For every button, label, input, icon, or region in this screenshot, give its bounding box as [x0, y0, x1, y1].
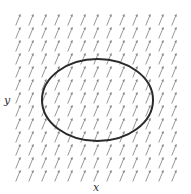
- field-arrow: [146, 171, 151, 182]
- field-arrow: [29, 132, 34, 143]
- field-arrow: [68, 67, 73, 78]
- field-arrow: [29, 119, 34, 130]
- field-arrow: [29, 93, 34, 104]
- field-arrow: [94, 80, 99, 91]
- field-arrow: [42, 54, 47, 65]
- field-arrow: [107, 67, 112, 78]
- field-arrow: [94, 145, 99, 156]
- field-arrow: [16, 28, 21, 39]
- field-arrow: [133, 54, 138, 65]
- field-arrow: [107, 41, 112, 52]
- field-arrow: [55, 132, 60, 143]
- field-arrow: [159, 132, 164, 143]
- field-arrow: [55, 145, 60, 156]
- field-arrow: [68, 119, 73, 130]
- field-arrow: [159, 106, 164, 117]
- field-arrow: [68, 158, 73, 169]
- field-arrow: [29, 54, 34, 65]
- field-arrow: [55, 93, 60, 104]
- field-arrow: [55, 171, 60, 182]
- field-arrow: [16, 41, 21, 52]
- field-arrow: [42, 41, 47, 52]
- field-arrow: [172, 145, 177, 156]
- field-arrow: [133, 145, 138, 156]
- field-arrow: [172, 106, 177, 117]
- field-arrow: [159, 41, 164, 52]
- field-arrow: [146, 145, 151, 156]
- field-arrow: [133, 119, 138, 130]
- field-arrow: [94, 15, 99, 26]
- field-arrow: [107, 28, 112, 39]
- field-arrow: [133, 80, 138, 91]
- field-arrow: [133, 93, 138, 104]
- field-arrow: [107, 93, 112, 104]
- field-arrow: [16, 93, 21, 104]
- field-arrow: [159, 80, 164, 91]
- field-arrow: [81, 158, 86, 169]
- field-arrow: [120, 41, 125, 52]
- field-arrow: [107, 119, 112, 130]
- field-arrow: [81, 15, 86, 26]
- field-arrow: [55, 158, 60, 169]
- field-arrow: [42, 132, 47, 143]
- field-arrow: [172, 41, 177, 52]
- field-arrow: [55, 80, 60, 91]
- field-arrow: [120, 15, 125, 26]
- field-arrow: [94, 93, 99, 104]
- field-arrow: [159, 145, 164, 156]
- field-arrow: [172, 67, 177, 78]
- field-arrow: [68, 145, 73, 156]
- field-arrow: [55, 106, 60, 117]
- field-arrow: [29, 67, 34, 78]
- x-axis-label: x: [93, 181, 100, 194]
- field-arrow: [146, 67, 151, 78]
- field-arrow: [81, 171, 86, 182]
- field-arrow: [133, 171, 138, 182]
- field-arrow: [16, 106, 21, 117]
- field-arrow: [120, 119, 125, 130]
- field-arrow: [68, 41, 73, 52]
- field-arrow: [42, 28, 47, 39]
- field-arrow: [172, 119, 177, 130]
- field-arrow: [81, 119, 86, 130]
- field-arrow: [55, 28, 60, 39]
- field-arrow: [133, 106, 138, 117]
- field-arrow: [81, 80, 86, 91]
- field-arrow: [94, 119, 99, 130]
- field-arrow: [94, 67, 99, 78]
- field-arrow: [29, 171, 34, 182]
- field-arrow: [172, 93, 177, 104]
- field-arrow: [146, 54, 151, 65]
- field-arrow: [29, 15, 34, 26]
- field-arrow: [42, 158, 47, 169]
- field-arrow: [159, 171, 164, 182]
- field-arrow: [172, 15, 177, 26]
- field-arrow: [107, 145, 112, 156]
- field-arrow: [16, 171, 21, 182]
- field-arrow: [146, 41, 151, 52]
- field-arrow: [120, 106, 125, 117]
- field-arrow: [120, 158, 125, 169]
- field-arrow: [159, 54, 164, 65]
- field-arrow: [55, 54, 60, 65]
- field-arrow: [81, 54, 86, 65]
- field-arrow: [107, 106, 112, 117]
- field-arrow: [42, 145, 47, 156]
- closed-curve-ellipse: [42, 59, 153, 141]
- field-arrow: [107, 171, 112, 182]
- y-axis-label: y: [3, 94, 11, 107]
- field-arrow: [172, 158, 177, 169]
- field-arrow: [159, 15, 164, 26]
- field-arrow: [133, 41, 138, 52]
- field-arrow: [172, 54, 177, 65]
- field-arrow: [68, 15, 73, 26]
- field-arrow: [120, 67, 125, 78]
- field-arrow: [146, 28, 151, 39]
- field-arrow: [107, 80, 112, 91]
- field-arrow: [133, 15, 138, 26]
- field-arrow: [42, 67, 47, 78]
- field-arrow: [29, 106, 34, 117]
- field-arrow: [81, 41, 86, 52]
- field-arrow: [172, 171, 177, 182]
- field-arrow: [29, 158, 34, 169]
